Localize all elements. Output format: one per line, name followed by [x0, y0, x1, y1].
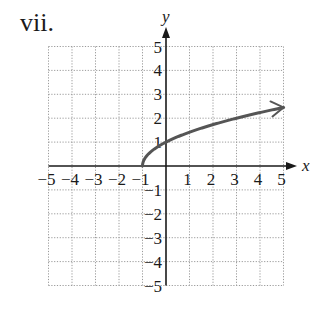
x-tick-label: −4	[61, 170, 80, 189]
x-tick-label: −5	[37, 170, 55, 189]
y-tick-label: 5	[154, 38, 163, 57]
x-tick-label: 5	[277, 170, 286, 189]
y-tick-label: −3	[144, 229, 162, 248]
y-tick-label: −4	[144, 253, 163, 272]
x-tick-label: 1	[183, 170, 192, 189]
problem-label: vii.	[20, 8, 54, 37]
x-tick-label: 2	[207, 170, 216, 189]
x-tick-label: −2	[108, 170, 126, 189]
y-axis-label: y	[160, 7, 170, 26]
x-axis-label: x	[301, 156, 310, 175]
y-tick-label: 3	[154, 85, 163, 104]
y-tick-label: 2	[154, 109, 163, 128]
x-tick-label: 3	[230, 170, 239, 189]
y-tick-label: 4	[154, 61, 163, 80]
function-graph: vii. −5−4−3−2−112345−5−4−3−2−112345 x y	[0, 0, 327, 313]
x-tick-label: −3	[84, 170, 102, 189]
y-tick-label: −2	[144, 205, 162, 224]
x-tick-label: 4	[254, 170, 263, 189]
x-axis-arrow-icon	[286, 162, 297, 170]
y-tick-label: −5	[144, 277, 162, 296]
y-axis-arrow-icon	[162, 27, 170, 38]
y-tick-label: −1	[144, 181, 162, 200]
